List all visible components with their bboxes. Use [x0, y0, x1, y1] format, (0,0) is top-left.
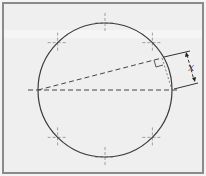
highlight-band — [4, 30, 202, 38]
diagram-canvas: x — [0, 0, 206, 176]
diagram-frame: x — [0, 0, 206, 176]
dimension-label: x — [188, 61, 195, 74]
panel-border — [3, 3, 203, 173]
